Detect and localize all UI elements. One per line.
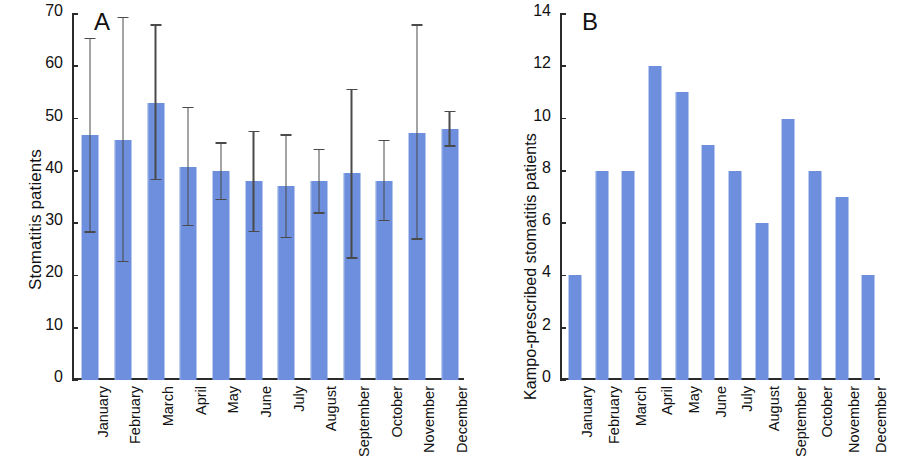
error-bar-cap [444,145,455,146]
bar-group [335,14,368,380]
bar [675,92,688,380]
y-tick-label: 12 [533,55,551,71]
bar-group [855,14,882,380]
error-bar-cap [117,261,128,262]
bar-group [401,14,434,380]
error-bar-cap [150,24,161,25]
bar-group [205,14,238,380]
bar [702,145,715,380]
error-bar-cap [346,257,357,258]
x-tick-label: February [607,386,622,444]
y-tick-label: 4 [542,264,551,280]
error-bar-stem [188,107,189,226]
x-tick-label: August [767,386,782,431]
bar-group [748,14,775,380]
x-tick-label: July [740,386,755,412]
x-tick-label: June [259,386,274,417]
bar-group [368,14,401,380]
error-bar-stem [416,24,417,239]
x-tick-label: September [794,386,809,457]
panel-b-x-tick-labels: JanuaryFebruaryMarchAprilMayJuneJulyAugu… [560,380,880,470]
x-tick-label: September [357,386,372,457]
error-bar-stem [122,17,123,263]
error-bar-cap [411,24,422,25]
y-tick-label: 40 [45,160,63,176]
error-bar-cap [281,237,292,238]
bar-group [107,14,140,380]
x-tick-label: August [324,386,339,431]
bar-group [74,14,107,380]
x-tick-label: October [390,386,405,438]
bar-group [139,14,172,380]
y-tick-label: 0 [54,369,63,385]
bar-group [615,14,642,380]
bar-group [562,14,589,380]
error-bar-cap [379,220,390,221]
x-tick-label: December [874,386,889,453]
panel-b-bars [560,14,880,380]
error-bar-cap [183,225,194,226]
bar [212,171,229,380]
bar [835,197,848,380]
y-tick-label: 8 [542,160,551,176]
bar-group [828,14,855,380]
error-bar-cap [248,231,259,232]
error-bar [444,111,455,147]
error-bar-cap [313,212,324,213]
error-bar-cap [85,231,96,232]
x-tick-label: November [847,386,862,453]
error-bar-stem [90,38,91,233]
error-bar-cap [313,149,324,150]
error-bar-stem [253,131,254,232]
error-bar-cap [411,238,422,239]
panel-a: A Stomatitis patients 010203040506070 Ja… [0,0,500,470]
bar-group [303,14,336,380]
panel-a-plot-area: 010203040506070 JanuaryFebruaryMarchApri… [72,14,464,380]
bar-group [237,14,270,380]
panel-b-plot-area: 02468101214 JanuaryFebruaryMarchAprilMay… [560,14,880,380]
x-tick-label: March [161,386,176,426]
bar-group [695,14,722,380]
bar-group [802,14,829,380]
error-bar-cap [215,199,226,200]
bar [862,275,875,380]
error-bar [85,38,96,233]
error-bar-stem [384,140,385,222]
error-bar [379,140,390,222]
error-bar-cap [150,179,161,180]
error-bar [248,131,259,232]
error-bar [313,149,324,214]
x-tick-label: February [128,386,143,444]
error-bar [411,24,422,239]
bar [648,66,661,380]
error-bar-cap [85,38,96,39]
x-tick-label: December [455,386,470,453]
error-bar-cap [379,140,390,141]
y-tick-label: 20 [45,264,63,280]
error-bar [215,142,226,200]
error-bar [346,89,357,259]
bar-group [270,14,303,380]
bar [755,223,768,380]
bar [782,119,795,380]
bar [808,171,821,380]
y-tick-label: 70 [45,3,63,19]
panel-b-y-axis-title: Kampo-prescribed stomatitis patients [522,133,540,400]
bar-group [588,14,615,380]
bar-group [722,14,749,380]
error-bar [183,107,194,226]
y-tick-label: 10 [533,108,551,124]
error-bar [150,24,161,180]
y-tick-label: 50 [45,108,63,124]
figure-root: A Stomatitis patients 010203040506070 Ja… [0,0,897,470]
panel-a-y-axis-title: Stomatitis patients [26,149,46,290]
bar-group [642,14,669,380]
bar [728,171,741,380]
bar [568,275,581,380]
error-bar-cap [248,131,259,132]
y-tick-label: 0 [542,369,551,385]
error-bar-cap [215,142,226,143]
error-bar-cap [346,89,357,90]
panel-a-bars [72,14,464,380]
y-tick-label: 60 [45,55,63,71]
